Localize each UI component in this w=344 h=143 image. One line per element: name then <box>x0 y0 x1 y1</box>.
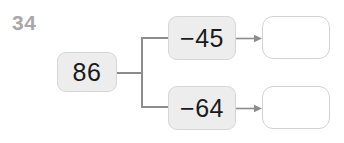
connector-arm-bottom <box>141 106 169 108</box>
connector-spine <box>141 37 143 108</box>
operation-label-2: −64 <box>180 96 224 121</box>
connector-stem <box>117 72 143 74</box>
arrow-right-icon-1 <box>236 34 263 43</box>
start-value-box: 86 <box>57 52 117 92</box>
answer-box-1[interactable] <box>262 16 330 59</box>
worksheet-diagram: 34 86 −45 −64 <box>0 0 344 143</box>
arrow-right-icon-2 <box>236 104 263 113</box>
connector-arm-top <box>141 37 169 39</box>
operation-box-1: −45 <box>168 16 236 60</box>
start-value-label: 86 <box>73 60 102 85</box>
operation-box-2: −64 <box>168 86 236 130</box>
answer-box-2[interactable] <box>262 86 330 129</box>
question-number: 34 <box>12 12 36 33</box>
operation-label-1: −45 <box>180 26 224 51</box>
